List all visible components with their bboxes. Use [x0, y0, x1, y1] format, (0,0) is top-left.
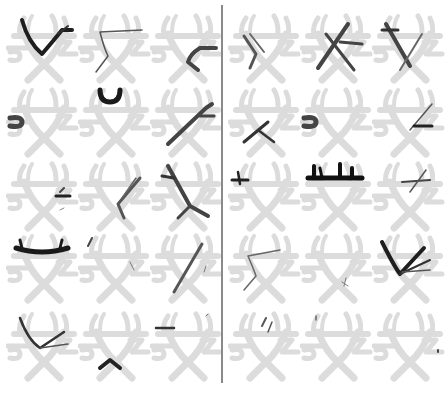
tract-cell: [300, 228, 376, 304]
tract-v-shape-icon: [6, 8, 82, 84]
tract-cell: [372, 8, 448, 84]
tract-tiny-dot-icon: [372, 306, 448, 382]
tract-cell: [372, 82, 448, 158]
tract-cell: [78, 82, 154, 158]
tract-small-fragment-icon: [6, 156, 82, 232]
tract-top-left-fragment-icon: [228, 156, 304, 232]
tract-right-branch-icon: [150, 8, 226, 84]
tract-left-cross-icon: [150, 156, 226, 232]
tract-cell: [228, 156, 304, 232]
tract-v-thin-icon: [6, 306, 82, 382]
tract-cell: [6, 8, 82, 84]
tract-sparse-icon: [78, 228, 154, 304]
tract-cell: [300, 8, 376, 84]
tract-top-short-bar-icon: [150, 306, 226, 382]
tract-thin-arc-icon: [78, 8, 154, 84]
tract-cell: [78, 306, 154, 382]
tract-left-cross-icon: [372, 8, 448, 84]
tract-cell: [6, 82, 82, 158]
tract-top-u-icon: [78, 82, 154, 158]
tract-left-hook-icon: [6, 82, 82, 158]
tract-cell: [6, 228, 82, 304]
tract-cell: [150, 156, 226, 232]
tract-cross-branch-icon: [300, 8, 376, 84]
tract-left-hook-icon: [300, 82, 376, 158]
tract-cell: [78, 156, 154, 232]
tract-small-curl-icon: [228, 306, 304, 382]
tract-cell: [300, 306, 376, 382]
tract-top-comb-icon: [300, 156, 376, 232]
tract-cell: [228, 306, 304, 382]
tract-cell: [228, 8, 304, 84]
tract-cell: [300, 82, 376, 158]
tract-cell: [150, 228, 226, 304]
tract-cell: [150, 8, 226, 84]
tract-cell: [150, 306, 226, 382]
tract-cell: [372, 156, 448, 232]
tract-cell: [228, 82, 304, 158]
tract-thin-arc-icon: [228, 228, 304, 304]
tract-bottom-cross-icon: [228, 82, 304, 158]
tract-right-thin-fan-icon: [372, 82, 448, 158]
tract-left-fan-icon: [228, 8, 304, 84]
tract-cell: [372, 306, 448, 382]
tract-tiny-dot-icon: [300, 306, 376, 382]
tract-cell: [300, 156, 376, 232]
tract-cell: [228, 228, 304, 304]
tract-right-diagonal-icon: [150, 82, 226, 158]
tract-right-fan-icon: [78, 156, 154, 232]
tract-cell: [372, 228, 448, 304]
tract-bottom-chevron-icon: [78, 306, 154, 382]
tract-v-shape-icon: [372, 228, 448, 304]
tract-long-diagonal-icon: [150, 228, 226, 304]
tract-cell: [78, 228, 154, 304]
tract-cell: [150, 82, 226, 158]
tract-tiny-fragment-icon: [300, 228, 376, 304]
tract-right-thin-cross-icon: [372, 156, 448, 232]
panel-divider: [221, 5, 223, 383]
tract-cell: [78, 8, 154, 84]
tract-cell: [6, 306, 82, 382]
tract-top-bar-icon: [6, 228, 82, 304]
tract-cell: [6, 156, 82, 232]
